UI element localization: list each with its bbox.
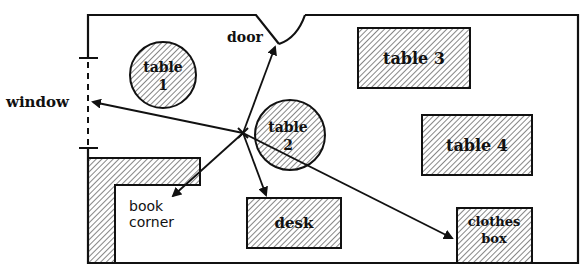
- clothes-box-label-line2: box: [481, 231, 507, 246]
- door-label: door: [227, 29, 263, 45]
- floor-plan: window door table 1 table 2 table 3 tabl…: [0, 0, 584, 267]
- book-corner-label-line2: corner: [129, 214, 174, 230]
- door-arc: [279, 15, 305, 44]
- table-2: [255, 100, 325, 170]
- table-2-label-line2: 2: [283, 137, 293, 153]
- table-4-label: table 4: [446, 136, 508, 155]
- clothes-box-label-line1: clothes: [468, 214, 521, 229]
- table-1-label-line2: 1: [158, 77, 168, 93]
- table-1: [130, 42, 196, 108]
- window-label: window: [5, 93, 70, 111]
- desk-label: desk: [275, 214, 314, 232]
- book-corner-label-line1: book: [129, 198, 164, 214]
- table-2-label-line1: table: [268, 119, 308, 135]
- table-1-label-line1: table: [143, 59, 183, 75]
- table-3-label: table 3: [383, 49, 445, 68]
